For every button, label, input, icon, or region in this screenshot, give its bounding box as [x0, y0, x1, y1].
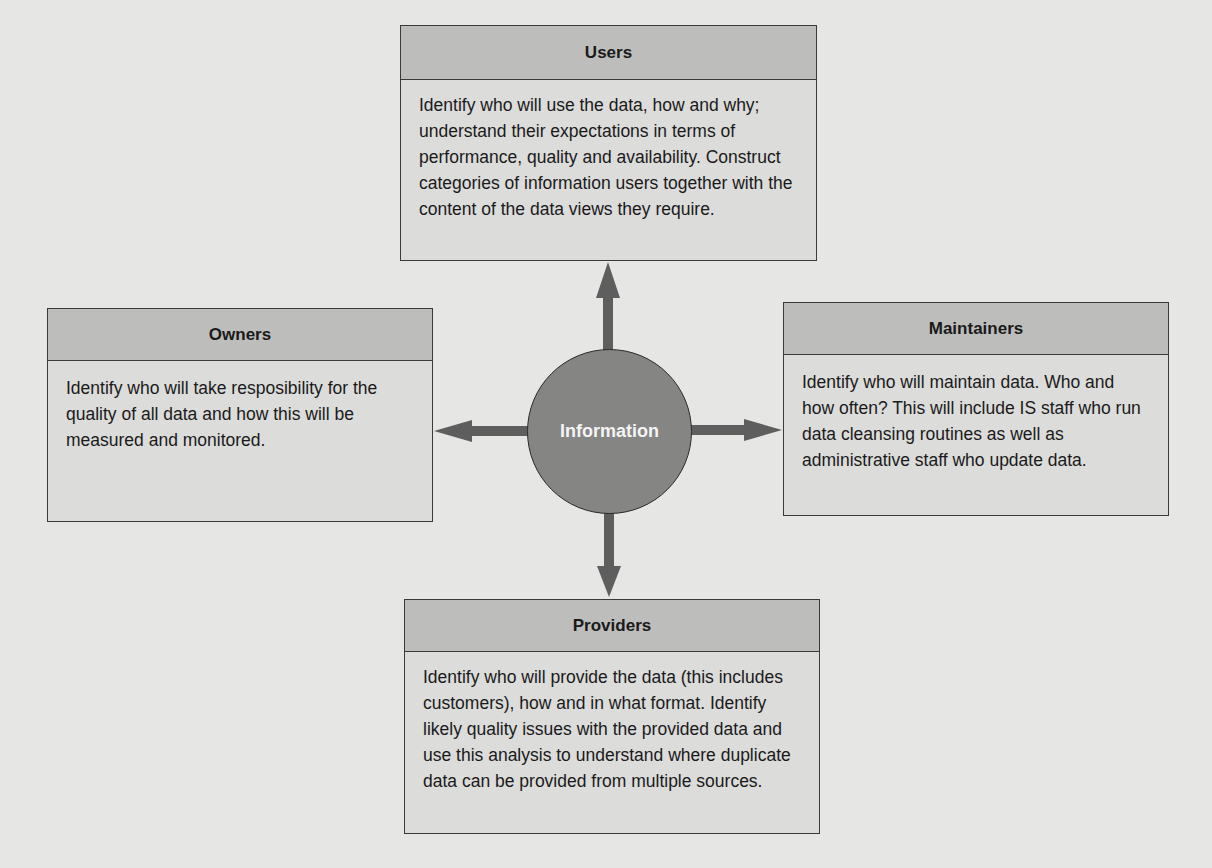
providers-title: Providers: [405, 600, 819, 652]
information-label: Information: [560, 421, 659, 442]
maintainers-box: Maintainers Identify who will maintain d…: [783, 302, 1169, 516]
owners-description: Identify who will take resposibility for…: [48, 361, 432, 463]
arrow-down-shaft: [604, 510, 614, 570]
arrow-down-head: [597, 566, 621, 597]
arrow-left-shaft: [470, 426, 530, 436]
information-circle: Information: [527, 349, 692, 514]
maintainers-title: Maintainers: [784, 303, 1168, 355]
users-box: Users Identify who will use the data, ho…: [400, 25, 817, 261]
users-title: Users: [401, 26, 816, 80]
arrow-left-head: [434, 420, 472, 442]
owners-box: Owners Identify who will take resposibil…: [47, 308, 433, 522]
owners-title: Owners: [48, 309, 432, 361]
arrow-right-shaft: [690, 425, 748, 435]
arrow-up-shaft: [603, 295, 613, 353]
providers-description: Identify who will provide the data (this…: [405, 652, 819, 804]
users-description: Identify who will use the data, how and …: [401, 80, 816, 232]
arrow-right-head: [744, 419, 782, 441]
arrow-up-head: [596, 262, 620, 298]
maintainers-description: Identify who will maintain data. Who and…: [784, 355, 1168, 483]
providers-box: Providers Identify who will provide the …: [404, 599, 820, 834]
